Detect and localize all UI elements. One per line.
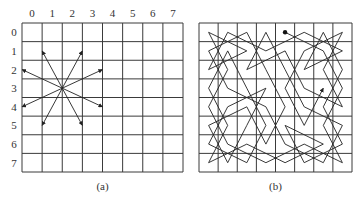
row-label: 7 bbox=[11, 157, 17, 169]
row-label: 2 bbox=[11, 64, 17, 76]
column-label: 6 bbox=[150, 7, 156, 19]
column-labels: 01234567 bbox=[29, 7, 176, 19]
knight-move-arrow bbox=[42, 88, 62, 125]
row-label: 6 bbox=[11, 138, 17, 150]
panel-b-knight-tour: (b) bbox=[199, 23, 352, 193]
knight-move-arrow bbox=[62, 88, 82, 125]
panel-a-knight-moves: 01234567 01234567 (a) bbox=[11, 7, 183, 193]
chessboard-grid-a bbox=[22, 23, 183, 172]
chessboard-grid-b bbox=[199, 23, 352, 172]
row-label: 4 bbox=[11, 101, 17, 113]
row-labels: 01234567 bbox=[11, 26, 17, 168]
column-label: 4 bbox=[110, 7, 116, 19]
column-label: 7 bbox=[170, 7, 176, 19]
row-label: 5 bbox=[11, 119, 17, 131]
column-label: 2 bbox=[70, 7, 76, 19]
caption-b: (b) bbox=[269, 180, 282, 193]
caption-a: (a) bbox=[96, 180, 109, 193]
tour-start-dot bbox=[283, 30, 287, 34]
column-label: 0 bbox=[29, 7, 35, 19]
row-label: 1 bbox=[11, 45, 17, 57]
column-label: 1 bbox=[49, 7, 55, 19]
knight-move-arrow bbox=[42, 51, 62, 88]
column-label: 3 bbox=[90, 7, 96, 19]
row-label: 0 bbox=[11, 26, 17, 38]
row-label: 3 bbox=[11, 82, 17, 94]
column-label: 5 bbox=[130, 7, 136, 19]
knight-move-arrow bbox=[62, 51, 82, 88]
knight-tour-figure: 01234567 01234567 (a) (b) bbox=[0, 0, 354, 200]
